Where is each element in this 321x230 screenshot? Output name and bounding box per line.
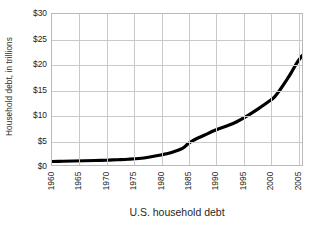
- y-axis-tick-label: $5: [38, 136, 47, 146]
- x-axis-tick-label-text: 1995: [238, 172, 248, 191]
- gridline-horizontal: [52, 91, 302, 92]
- y-axis-title-text: Household debt, in trillions: [5, 37, 14, 136]
- gridline-vertical: [244, 14, 245, 165]
- x-axis-tick-label-text: 1960: [46, 172, 56, 191]
- x-axis-tick-label-text: 1985: [183, 172, 193, 191]
- x-axis-tick-label: 2005: [293, 167, 303, 203]
- gridline-horizontal: [52, 142, 302, 143]
- gridline-vertical: [79, 14, 80, 165]
- y-axis-tick-label: $30: [33, 8, 47, 18]
- gridline-horizontal: [52, 65, 302, 66]
- gridline-vertical: [162, 14, 163, 165]
- x-axis-tick-label-text: 1990: [210, 172, 220, 191]
- chart-container: Household debt, in trillions $30$25$20$1…: [0, 0, 321, 230]
- series-line-u-s-household-debt: [52, 56, 302, 162]
- gridline-horizontal: [52, 40, 302, 41]
- x-axis-tick-label-text: 2000: [265, 172, 275, 191]
- x-axis-tick-label-text: 1975: [128, 172, 138, 191]
- x-axis-tick-label-text: 1980: [156, 172, 166, 191]
- x-axis-tick-label: 1995: [238, 167, 248, 203]
- x-axis-tick-label: 1980: [156, 167, 166, 203]
- gridline-horizontal: [52, 116, 302, 117]
- plot-area: [51, 13, 303, 166]
- gridline-vertical: [216, 14, 217, 165]
- gridline-vertical: [107, 14, 108, 165]
- y-axis-tick-label: $15: [33, 85, 47, 95]
- x-axis-tick-label-text: 1965: [73, 172, 83, 191]
- gridline-vertical: [189, 14, 190, 165]
- x-axis-tick-labels: 1960196519701975198019851990199520002005: [51, 167, 303, 205]
- x-axis-tick-label-text: 1970: [101, 172, 111, 191]
- gridline-vertical: [271, 14, 272, 165]
- x-axis-tick-label-text: 2005: [293, 172, 303, 191]
- x-axis-title: U.S. household debt: [51, 206, 303, 218]
- y-axis-title: Household debt, in trillions: [0, 0, 18, 172]
- gridline-vertical: [299, 14, 300, 165]
- x-axis-tick-label: 1975: [128, 167, 138, 203]
- x-axis-tick-label: 1965: [73, 167, 83, 203]
- y-axis-tick-label: $10: [33, 110, 47, 120]
- x-axis-tick-label: 2000: [265, 167, 275, 203]
- x-axis-tick-label: 1985: [183, 167, 193, 203]
- x-axis-tick-label: 1960: [46, 167, 56, 203]
- gridline-vertical: [134, 14, 135, 165]
- y-axis-tick-labels: $30$25$20$15$10$5$0: [18, 13, 50, 166]
- x-axis-tick-label: 1970: [101, 167, 111, 203]
- y-axis-tick-label: $25: [33, 34, 47, 44]
- y-axis-tick-label: $20: [33, 59, 47, 69]
- x-axis-tick-label: 1990: [210, 167, 220, 203]
